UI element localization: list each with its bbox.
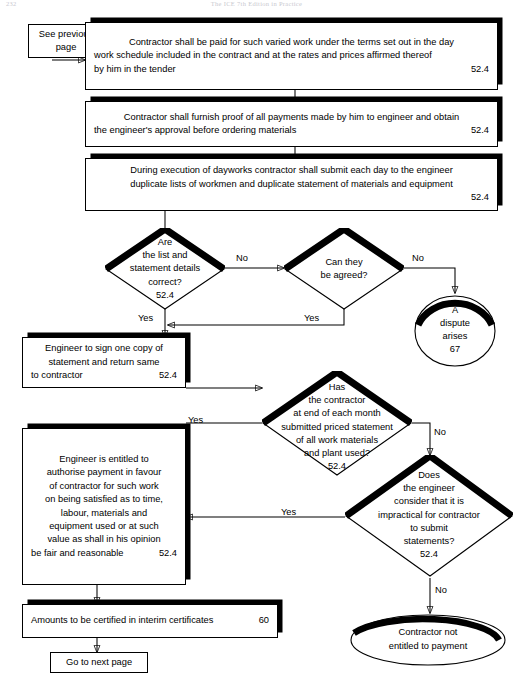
edge-label-impractical-no: No [435, 585, 447, 596]
authorise-payment-line3: of contractor for such work [31, 480, 177, 493]
furnish-proof-line2: the engineer's approval before ordering … [94, 124, 296, 137]
furnish-proof-line1: Contractor shall furnish proof of all pa… [94, 111, 489, 124]
dayworks-lists-line1: During execution of dayworks contractor … [94, 164, 489, 177]
edge-label-submitted-no: No [434, 427, 446, 438]
decision-list-correct-shape [105, 228, 225, 310]
authorise-payment-line8: be fair and reasonable [31, 547, 124, 560]
interim-certificates-clause: 60 [259, 614, 269, 627]
furnish-proof-clause: 52.4 [471, 124, 489, 137]
engineer-sign-line3: to contractor [31, 369, 83, 382]
engineer-sign-line2: statement and return same [31, 356, 177, 369]
terminator-dispute-arises[interactable]: A dispute arises 67 [412, 292, 498, 368]
paid-varied-work-clause: 52.4 [471, 63, 489, 76]
decision-impractical-shape [345, 455, 513, 578]
authorise-payment-line6: equipment used or at such [31, 520, 177, 533]
process-box-paid-varied-work[interactable]: Contractor shall be paid for such varied… [85, 22, 498, 90]
authorise-payment-line7: value as shall in his opinion [31, 533, 177, 546]
decision-can-be-agreed[interactable]: Can they be agreed? [284, 228, 404, 310]
terminator-not-entitled-shape [348, 612, 508, 667]
terminator-dispute-shape [412, 292, 498, 368]
process-box-engineer-sign[interactable]: Engineer to sign one copy of statement a… [22, 337, 186, 388]
engineer-sign-clause: 52.4 [159, 369, 177, 382]
edge-label-can-be-agreed-yes: Yes [304, 313, 319, 324]
engineer-sign-line1: Engineer to sign one copy of [31, 342, 177, 355]
process-box-authorise-payment[interactable]: Engineer is entitled to authorise paymen… [22, 428, 186, 585]
process-box-interim-certificates[interactable]: Amounts to be certified in interim certi… [22, 604, 278, 638]
decision-impractical-to-submit[interactable]: Does the engineer consider that it is im… [345, 455, 513, 578]
authorise-payment-line5: labour, materials and [31, 507, 177, 520]
edge-label-impractical-yes: Yes [281, 507, 296, 518]
decision-can-be-agreed-shape [284, 228, 404, 310]
authorise-payment-clause: 52.4 [159, 547, 177, 560]
see-previous-page-line2: page [56, 41, 77, 54]
paid-varied-work-line1: Contractor shall be paid for such varied… [94, 36, 489, 49]
running-head-page-number: 232 [6, 0, 17, 7]
edge-label-list-correct-no: No [236, 253, 248, 264]
edge-label-list-correct-yes: Yes [138, 313, 153, 324]
process-box-dayworks-lists[interactable]: During execution of dayworks contractor … [85, 158, 498, 211]
terminator-not-entitled[interactable]: Contractor not entitled to payment [348, 612, 508, 667]
edge-label-submitted-yes: Yes [188, 415, 203, 426]
dayworks-lists-clause: 52.4 [94, 191, 489, 204]
decision-list-correct[interactable]: Are the list and statement details corre… [105, 228, 225, 310]
authorise-payment-line1: Engineer is entitled to [31, 453, 177, 466]
go-to-next-page-connector[interactable]: Go to next page [50, 652, 148, 673]
dayworks-lists-line2: duplicate lists of workmen and duplicate… [94, 178, 489, 191]
process-box-furnish-proof[interactable]: Contractor shall furnish proof of all pa… [85, 101, 498, 147]
authorise-payment-line4: on being satisfied as to time, [31, 493, 177, 506]
paid-varied-work-line3: by him in the tender [94, 63, 176, 76]
authorise-payment-line2: authorise payment in favour [31, 466, 177, 479]
edge-label-can-be-agreed-no: No [412, 253, 424, 264]
go-to-next-page-label: Go to next page [66, 656, 132, 669]
flowchart-page: 232 The ICE 7th Edition in Practice [0, 0, 513, 681]
paid-varied-work-line2: work schedule included in the contract a… [94, 49, 489, 62]
interim-certificates-line1: Amounts to be certified in interim certi… [31, 614, 213, 627]
running-head-title: The ICE 7th Edition in Practice [211, 0, 302, 7]
